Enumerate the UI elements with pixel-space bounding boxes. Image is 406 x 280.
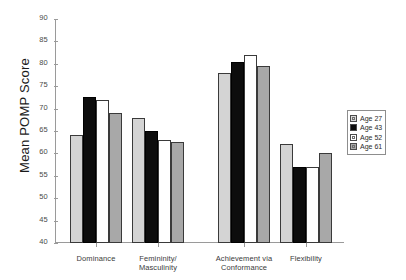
bar (132, 118, 145, 243)
legend-item[interactable]: Age 52 (350, 133, 382, 142)
y-axis-tick-label: 65 (8, 125, 48, 134)
bar-group (67, 19, 125, 243)
legend-label: Age 61 (360, 143, 382, 150)
x-axis-tick-mark (158, 243, 159, 247)
legend-item[interactable]: Age 43 (350, 123, 382, 132)
bar (293, 167, 306, 243)
bar (244, 55, 257, 243)
bar (231, 62, 244, 243)
bar-group (215, 19, 273, 243)
bar-chart: Mean POMP Score 9085807570656055504540 D… (0, 0, 406, 280)
bar (257, 66, 270, 243)
legend: Age 27Age 43Age 52Age 61 (347, 110, 386, 155)
legend-swatch (350, 115, 357, 122)
bar (96, 100, 109, 243)
bar (218, 73, 231, 243)
bar-group (129, 19, 187, 243)
y-axis-tick-label: 70 (8, 103, 48, 112)
legend-item[interactable]: Age 61 (350, 142, 382, 151)
y-axis-tick-label: 90 (8, 13, 48, 22)
x-axis-tick-mark (96, 243, 97, 247)
bar-group (277, 19, 335, 243)
y-axis-tick-label: 75 (8, 80, 48, 89)
bar (145, 131, 158, 243)
bar (280, 144, 293, 243)
y-axis-tick-label: 85 (8, 35, 48, 44)
legend-swatch (350, 134, 357, 141)
legend-label: Age 27 (360, 115, 382, 122)
legend-label: Age 43 (360, 124, 382, 131)
bar (83, 97, 96, 243)
y-axis-tick-label: 50 (8, 192, 48, 201)
bar-groups (55, 19, 344, 243)
y-axis-tick-mark (54, 243, 58, 244)
x-axis-tick-mark (244, 243, 245, 247)
bar (171, 142, 184, 243)
legend-label: Age 52 (360, 134, 382, 141)
y-axis-tick-label: 45 (8, 215, 48, 224)
y-axis-tick-label: 60 (8, 147, 48, 156)
y-axis-tick-label: 40 (8, 237, 48, 246)
bar (319, 153, 332, 243)
legend-item[interactable]: Age 27 (350, 114, 382, 123)
bar (158, 140, 171, 243)
y-axis-tick-label: 55 (8, 170, 48, 179)
bar (109, 113, 122, 243)
x-axis-tick-mark (306, 243, 307, 247)
bar (70, 135, 83, 243)
x-axis-label: Femininity/Masculinity (113, 254, 203, 272)
y-axis-tick-label: 80 (8, 58, 48, 67)
legend-swatch (350, 124, 357, 131)
bar (306, 167, 319, 243)
x-axis-label: Flexibility (261, 254, 351, 263)
legend-swatch (350, 143, 357, 150)
